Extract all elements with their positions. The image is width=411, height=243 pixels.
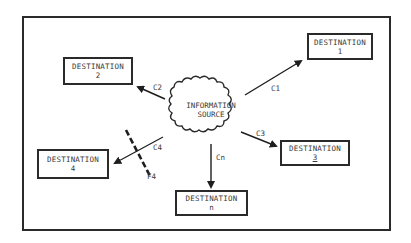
- channel-c3-label: C3: [256, 129, 265, 138]
- destination-1-box: DESTINATION 1: [307, 33, 373, 60]
- destination-3-box: DESTINATION 3: [280, 140, 350, 166]
- filter-f4-label: F4: [147, 172, 156, 181]
- channel-c2-label: C2: [153, 83, 162, 92]
- source-line-1: INFORMATION: [186, 101, 236, 110]
- channel-c1-label: C1: [271, 84, 280, 93]
- destination-4-box: DESTINATION 4: [37, 149, 109, 179]
- destination-n-number: n: [209, 203, 214, 212]
- destination-3-number: 3: [313, 153, 318, 162]
- information-source-label: INFORMATION SOURCE: [176, 101, 246, 119]
- destination-4-number: 4: [71, 164, 76, 173]
- destination-1-number: 1: [338, 47, 343, 56]
- destination-2-number: 2: [96, 71, 101, 80]
- source-line-2: SOURCE: [197, 110, 224, 119]
- filter-f4-line: [126, 130, 150, 176]
- destination-2-box: DESTINATION 2: [63, 57, 133, 85]
- destination-3-title: DESTINATION: [289, 144, 341, 153]
- channel-c4-label: C4: [153, 143, 162, 152]
- diagram-canvas: INFORMATION SOURCE DESTINATION 1 DESTINA…: [0, 0, 411, 243]
- destination-n-title: DESTINATION: [186, 194, 238, 203]
- destination-2-title: DESTINATION: [72, 62, 124, 71]
- channel-cn-label: Cn: [216, 153, 225, 162]
- destination-1-title: DESTINATION: [314, 38, 366, 47]
- destination-n-box: DESTINATION n: [175, 190, 248, 216]
- destination-4-title: DESTINATION: [47, 155, 99, 164]
